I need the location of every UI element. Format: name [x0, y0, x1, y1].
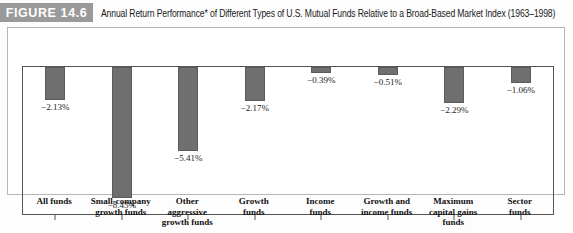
figure-caption: Annual Return Performance* of Different …: [93, 1, 573, 23]
bar[interactable]: [311, 67, 331, 73]
bar-value-label: −5.41%: [174, 153, 202, 163]
bar-slot: −2.17%: [222, 67, 289, 214]
bar[interactable]: [511, 67, 531, 83]
bar-value-label: −0.39%: [307, 75, 335, 85]
bar-slot: −0.39%: [288, 67, 355, 214]
bar-slot: −5.41%: [155, 67, 222, 214]
bar-value-label: −0.51%: [374, 77, 402, 87]
bar[interactable]: [178, 67, 198, 151]
bar-slot: −0.51%: [355, 67, 422, 214]
category-label-line: funds: [480, 207, 560, 218]
figure-header: FIGURE 14.6 Annual Return Performance* o…: [0, 3, 573, 22]
figure-container: FIGURE 14.6 Annual Return Performance* o…: [0, 0, 573, 233]
category-label-line: Sector: [480, 196, 560, 207]
bar-slot: −1.06%: [488, 67, 555, 214]
x-axis-category-labels: All fundsSmall-companygrowth fundsOthera…: [21, 196, 553, 233]
x-axis-category-label: Sectorfunds: [480, 196, 560, 217]
chart-frame: −2.13%−8.45%−5.41%−2.17%−0.39%−0.51%−2.2…: [7, 27, 565, 195]
plot-area: −2.13%−8.45%−5.41%−2.17%−0.39%−0.51%−2.2…: [22, 58, 554, 216]
bar[interactable]: [112, 67, 132, 198]
bar-value-label: −1.06%: [507, 85, 535, 95]
bar[interactable]: [45, 67, 65, 100]
bar-slot: −2.13%: [22, 67, 89, 214]
bar[interactable]: [245, 67, 265, 101]
bar[interactable]: [378, 67, 398, 75]
category-label-line: funds: [413, 217, 493, 228]
category-label-line: growth funds: [147, 217, 227, 228]
bar-value-label: −2.29%: [440, 105, 468, 115]
bar[interactable]: [444, 67, 464, 103]
bar-value-label: −2.13%: [41, 102, 69, 112]
bar-slot: −8.45%: [89, 67, 156, 214]
bar-group: −2.13%−8.45%−5.41%−2.17%−0.39%−0.51%−2.2…: [22, 67, 554, 214]
bar-value-label: −2.17%: [241, 103, 269, 113]
bar-slot: −2.29%: [421, 67, 488, 214]
figure-number-badge: FIGURE 14.6: [0, 3, 93, 22]
